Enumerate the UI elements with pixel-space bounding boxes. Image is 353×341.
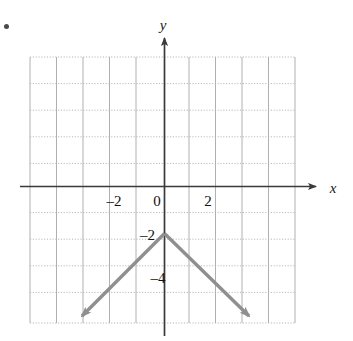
coordinate-plane-svg: –2 0 2 –2 –4 y x <box>0 0 353 341</box>
x-tick-label-0: 0 <box>153 193 161 209</box>
y-tick-label--4: –4 <box>150 270 167 286</box>
y-tick-label--2: –2 <box>139 227 155 243</box>
y-axis-label: y <box>158 17 167 33</box>
graph-figure: –2 0 2 –2 –4 y x <box>0 0 353 341</box>
x-tick-label-2: 2 <box>204 193 212 209</box>
x-axis-label: x <box>329 180 337 196</box>
x-tick-label--2: –2 <box>106 193 122 209</box>
curve-right-branch <box>165 234 250 317</box>
curve-absolute-value <box>82 234 249 317</box>
